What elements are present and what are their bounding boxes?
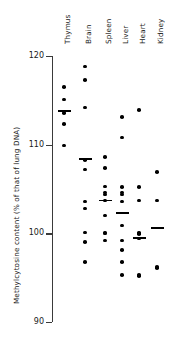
data-point	[103, 185, 107, 189]
mean-bar	[99, 200, 112, 202]
data-point	[137, 199, 141, 203]
data-point	[103, 239, 107, 243]
data-point	[137, 274, 141, 278]
data-point	[83, 200, 87, 204]
data-point	[120, 273, 124, 277]
data-point	[120, 224, 124, 228]
data-point	[103, 214, 107, 218]
data-point	[120, 200, 124, 204]
data-point	[83, 207, 87, 211]
data-point	[83, 65, 87, 69]
mean-bar	[58, 110, 71, 112]
data-point	[120, 239, 124, 243]
data-point	[103, 155, 107, 159]
data-point	[103, 166, 107, 170]
mean-bar	[151, 227, 164, 229]
data-point	[137, 185, 141, 189]
data-point	[83, 78, 87, 82]
data-point	[120, 185, 124, 189]
data-point	[83, 168, 87, 172]
data-point	[83, 231, 87, 235]
data-point	[155, 266, 159, 270]
data-point	[103, 232, 107, 236]
mean-bar	[116, 212, 129, 214]
plot-area	[0, 0, 172, 351]
data-point	[137, 108, 141, 112]
data-point	[83, 260, 87, 264]
data-point	[120, 136, 124, 140]
data-point	[103, 193, 107, 197]
data-point	[137, 232, 141, 236]
data-point	[155, 170, 159, 174]
data-point	[120, 193, 124, 197]
data-point	[62, 122, 66, 126]
data-point	[83, 106, 87, 110]
data-point	[62, 144, 66, 148]
data-point	[83, 240, 87, 244]
data-point	[120, 115, 124, 119]
data-point	[120, 248, 124, 252]
mean-bar	[133, 237, 146, 239]
data-point	[120, 260, 124, 264]
data-point	[155, 199, 159, 203]
data-point	[62, 85, 66, 89]
mean-bar	[79, 158, 92, 160]
data-point	[62, 98, 66, 102]
methylcytosine-dot-plot: Methylcytosine content (% of that of lun…	[0, 0, 172, 351]
